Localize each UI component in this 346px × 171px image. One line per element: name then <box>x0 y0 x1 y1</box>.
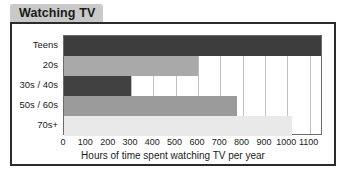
chart-title-tab: Watching TV <box>10 4 103 23</box>
x-axis-title: Hours of time spent watching TV per year <box>10 150 336 161</box>
x-tick-label: 800 <box>234 137 249 147</box>
x-tick-label: 900 <box>256 137 271 147</box>
bar-teens <box>64 36 321 56</box>
category-axis-labels: Teens20s30s / 40s50s / 60s70s+ <box>0 35 58 135</box>
x-tick-label: 500 <box>167 137 182 147</box>
category-label: Teens <box>0 39 58 50</box>
bar-20s <box>64 56 198 76</box>
bar-row <box>64 116 323 136</box>
x-tick-label: 400 <box>145 137 160 147</box>
x-tick-label: 600 <box>189 137 204 147</box>
bar-series <box>64 36 321 134</box>
bar-row <box>64 56 323 76</box>
x-tick-label: 300 <box>122 137 137 147</box>
x-tick-label: 200 <box>100 137 115 147</box>
category-label: 30s / 40s <box>0 79 58 90</box>
x-tick-label: 1100 <box>299 137 318 147</box>
category-label: 20s <box>0 59 58 70</box>
bar-50s-60s <box>64 96 237 116</box>
bar-row <box>64 36 323 56</box>
chart-title: Watching TV <box>19 6 95 20</box>
bar-row <box>64 96 323 116</box>
x-tick-label: 0 <box>60 137 65 147</box>
x-tick-label: 700 <box>212 137 227 147</box>
bar-30s-40s <box>64 76 131 96</box>
category-label: 50s / 60s <box>0 99 58 110</box>
bar-row <box>64 76 323 96</box>
chart-figure: Watching TV Teens20s30s / 40s50s / 60s70… <box>0 0 346 171</box>
x-tick-label: 100 <box>78 137 93 147</box>
category-label: 70s+ <box>0 119 58 130</box>
bar-70s- <box>64 116 292 136</box>
x-tick-label: 1000 <box>276 137 296 147</box>
plot-area <box>63 35 322 135</box>
x-axis-tick-labels: 010020030040050060070080090010001100 <box>63 137 322 150</box>
